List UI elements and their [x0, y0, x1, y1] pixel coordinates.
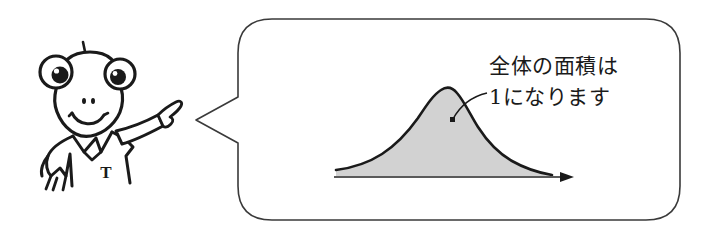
mouth-corner-right [104, 113, 108, 115]
illustration-svg: T [0, 0, 718, 235]
collar-band [84, 152, 101, 160]
right-eye [105, 59, 135, 89]
left-eye [40, 56, 72, 88]
callout-line-2: 1になります [489, 85, 610, 109]
frog-mascot: T [40, 42, 182, 190]
legs [46, 176, 66, 190]
pointing-arm [116, 115, 163, 144]
callout-line-1: 全体の面積は [489, 54, 618, 78]
leader-dot [450, 117, 455, 122]
pointing-hand-icon [158, 101, 182, 127]
figure-canvas: T [0, 0, 718, 235]
shirt-letter: T [100, 163, 112, 182]
